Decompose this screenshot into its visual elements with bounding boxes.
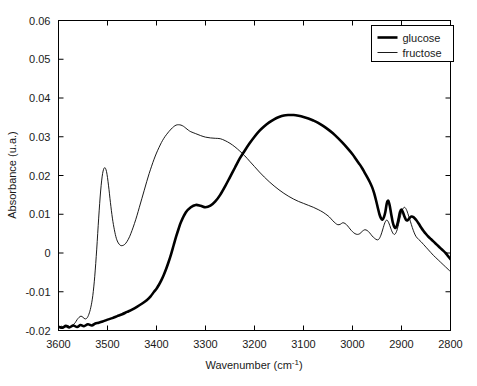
x-tick-label: 3000: [340, 338, 364, 350]
y-tick-label: -0.01: [25, 286, 50, 298]
spectroscopy-figure: 0.060.050.040.030.020.010-0.01-0.02 3600…: [0, 0, 477, 386]
x-axis-title: Wavenumber (cm-1): [205, 358, 302, 371]
legend-label-glucose: glucose: [403, 32, 441, 44]
x-tick-label: 3500: [95, 338, 119, 350]
y-tick-label: -0.02: [25, 325, 50, 337]
series-line-glucose: [59, 115, 451, 328]
x-tick-label: 3400: [144, 338, 168, 350]
y-tick-label: 0.05: [29, 53, 50, 65]
legend-label-fructose: fructose: [403, 47, 442, 59]
x-tick-label: 2800: [438, 338, 462, 350]
x-tick-label: 3300: [193, 338, 217, 350]
x-tick-label: 2900: [389, 338, 413, 350]
chart-canvas: 0.060.050.040.030.020.010-0.01-0.02 3600…: [0, 0, 477, 386]
y-tick-label: 0: [44, 247, 50, 259]
legend[interactable]: glucosefructose: [372, 26, 454, 62]
x-tick-label: 3600: [46, 338, 70, 350]
y-tick-label: 0.03: [29, 131, 50, 143]
x-tick-label: 3200: [242, 338, 266, 350]
plot-frame: [59, 21, 451, 331]
y-tick-label: 0.06: [29, 15, 50, 27]
x-tick-label: 3100: [291, 338, 315, 350]
y-tick-label: 0.01: [29, 208, 50, 220]
x-axis-title-base: Wavenumber (cm: [205, 359, 291, 371]
x-axis-title-close: ): [299, 359, 303, 371]
y-tick-label: 0.02: [29, 170, 50, 182]
y-tick-label: 0.04: [29, 92, 50, 104]
y-axis-ticks: 0.060.050.040.030.020.010-0.01-0.02: [25, 15, 450, 337]
y-axis-title: Absorbance (u.a.): [6, 131, 18, 218]
data-series-group: [59, 115, 451, 328]
series-line-fructose: [59, 125, 451, 328]
